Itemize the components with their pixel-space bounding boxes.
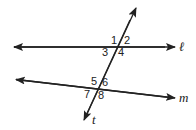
label-l: ℓ (179, 39, 185, 54)
label-m: m (179, 90, 188, 105)
angle-6: 6 (102, 76, 108, 88)
angle-2: 2 (124, 34, 130, 46)
angle-7: 7 (84, 88, 90, 100)
line-t (84, 8, 136, 120)
angle-3: 3 (102, 46, 108, 58)
angle-5: 5 (91, 75, 97, 87)
angle-1: 1 (111, 34, 117, 46)
angle-4: 4 (118, 46, 124, 58)
angle-8: 8 (98, 89, 104, 101)
label-t: t (92, 112, 96, 127)
diagram-canvas: ℓ m t 1 2 3 4 5 6 7 8 (0, 0, 196, 130)
